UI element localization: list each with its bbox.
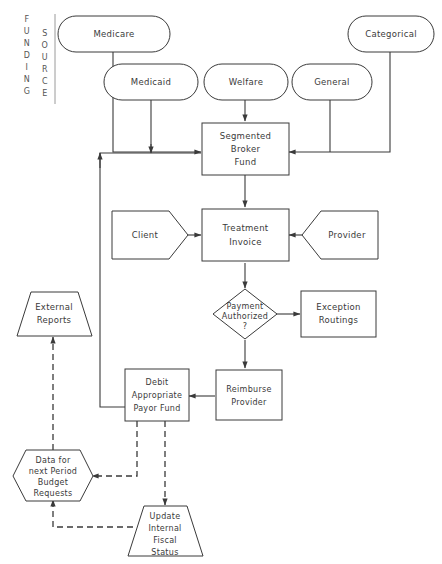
banner-col1-c0: F xyxy=(24,15,29,24)
node-reimburse-provider[interactable]: Reimburse Provider xyxy=(216,370,282,420)
banner-col1-c5: N xyxy=(24,75,30,84)
banner-col2-c5: E xyxy=(42,89,48,98)
exception-routings-line2: Routings xyxy=(319,315,359,325)
banner-col1-c4: I xyxy=(26,63,29,72)
banner-col1-c2: N xyxy=(24,39,30,48)
banner-col2-c2: U xyxy=(42,53,48,62)
node-categorical[interactable]: Categorical xyxy=(348,16,434,52)
node-welfare[interactable]: Welfare xyxy=(204,64,288,100)
debit-payor-fund-line2: Appropriate xyxy=(132,391,183,400)
external-reports-line1: External xyxy=(35,302,73,312)
treatment-invoice-shape[interactable] xyxy=(202,209,289,261)
update-fiscal-status-line4: Status xyxy=(151,548,178,557)
treatment-invoice-line1: Treatment xyxy=(222,223,269,233)
flowchart-canvas: F U N D I N G S O U R C E xyxy=(0,0,442,564)
connector-debit-to-budget-dashed xyxy=(92,421,137,476)
provider-label: Provider xyxy=(328,230,366,240)
node-medicare[interactable]: Medicare xyxy=(58,16,170,52)
banner-col2-c4: C xyxy=(42,77,48,86)
node-update-fiscal-status[interactable]: Update Internal Fiscal Status xyxy=(128,506,203,557)
funding-source-banner: F U N D I N G S O U R C E xyxy=(24,14,55,104)
node-provider[interactable]: Provider xyxy=(302,211,378,259)
exception-routings-line1: Exception xyxy=(316,302,361,312)
update-fiscal-status-line3: Fiscal xyxy=(153,536,177,545)
segmented-broker-fund-line1: Segmented xyxy=(220,131,272,141)
node-debit-payor-fund[interactable]: Debit Appropriate Payor Fund xyxy=(125,369,189,421)
payment-authorized-line1: Payment xyxy=(226,302,263,311)
node-client[interactable]: Client xyxy=(112,211,188,259)
debit-payor-fund-line1: Debit xyxy=(145,378,168,387)
connector-fiscal-to-budget-dashed xyxy=(53,500,143,527)
medicaid-label: Medicaid xyxy=(131,77,171,87)
node-medicaid[interactable]: Medicaid xyxy=(104,64,198,100)
budget-requests-line3: Budget xyxy=(38,478,69,487)
general-label: General xyxy=(314,77,350,87)
node-general[interactable]: General xyxy=(292,64,372,100)
segmented-broker-fund-line2: Broker xyxy=(231,144,261,154)
reimburse-provider-shape[interactable] xyxy=(216,370,282,420)
banner-col2-c3: R xyxy=(42,65,48,74)
payment-authorized-line2: Authorized xyxy=(222,312,268,321)
flowchart-svg: F U N D I N G S O U R C E xyxy=(0,0,442,564)
banner-col2-c1: O xyxy=(42,41,49,50)
budget-requests-line1: Data for xyxy=(35,456,70,465)
client-label: Client xyxy=(132,230,159,240)
node-payment-authorized[interactable]: Payment Authorized ? xyxy=(213,289,277,339)
node-exception-routings[interactable]: Exception Routings xyxy=(301,291,376,337)
treatment-invoice-line2: Invoice xyxy=(229,237,262,247)
medicare-label: Medicare xyxy=(93,29,134,39)
node-budget-requests[interactable]: Data for next Period Budget Requests xyxy=(13,450,93,501)
categorical-label: Categorical xyxy=(365,29,417,39)
debit-payor-fund-line3: Payor Fund xyxy=(133,404,180,413)
external-reports-line2: Reports xyxy=(37,315,72,325)
node-treatment-invoice[interactable]: Treatment Invoice xyxy=(202,209,289,261)
node-segmented-broker-fund[interactable]: Segmented Broker Fund xyxy=(202,123,289,175)
update-fiscal-status-line1: Update xyxy=(150,512,181,521)
banner-col1-c3: D xyxy=(24,51,31,60)
node-external-reports[interactable]: External Reports xyxy=(17,292,92,336)
banner-col1-c1: U xyxy=(24,27,30,36)
budget-requests-line2: next Period xyxy=(29,467,78,476)
banner-col2-c0: S xyxy=(42,29,48,38)
segmented-broker-fund-line3: Fund xyxy=(235,157,257,167)
reimburse-provider-line1: Reimburse xyxy=(226,385,271,394)
update-fiscal-status-line2: Internal xyxy=(148,524,181,533)
welfare-label: Welfare xyxy=(229,77,263,87)
budget-requests-line4: Requests xyxy=(33,489,72,498)
payment-authorized-line3: ? xyxy=(243,322,248,331)
reimburse-provider-line2: Provider xyxy=(231,398,267,407)
banner-col1-c6: G xyxy=(24,87,31,96)
